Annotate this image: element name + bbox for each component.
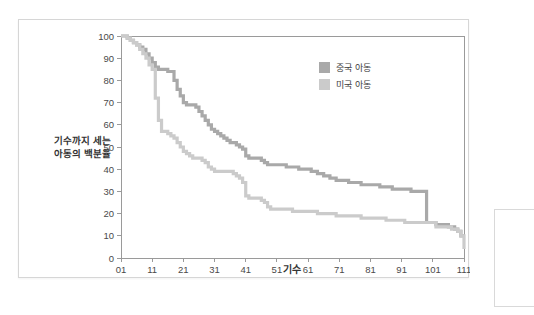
x-tick-label: 101 (425, 264, 441, 275)
x-tick-label: 31 (209, 264, 220, 275)
x-tick-label: 91 (396, 264, 407, 275)
x-tick-label: 01 (116, 264, 127, 275)
x-tick-label: 51 (272, 264, 283, 275)
x-tick-label: 61 (303, 264, 314, 275)
x-tick-label: 41 (240, 264, 251, 275)
plot-area-frame (121, 36, 464, 258)
survival-curve-chart: 0102030405060708090100 01112131415161718… (19, 20, 470, 279)
x-tick-label: 11 (147, 264, 157, 275)
y-tick-label: 70 (103, 97, 114, 108)
legend-label: 중국 아동 (336, 63, 371, 73)
legend-label: 미국 아동 (336, 80, 371, 90)
y-tick-label: 20 (103, 208, 114, 219)
x-axis-title: 기수 (283, 263, 301, 275)
legend-swatch (319, 79, 330, 90)
x-tick-label: 21 (178, 264, 189, 275)
figure-card: 0102030405060708090100 01112131415161718… (18, 19, 469, 278)
y-tick-label: 100 (98, 31, 114, 42)
adjacent-panel-edge (494, 209, 534, 307)
x-tick-label: 81 (365, 264, 376, 275)
y-tick-label: 40 (103, 164, 114, 175)
legend-swatch (319, 62, 330, 73)
x-tick-label: 111 (457, 264, 470, 275)
x-tick-label: 71 (334, 264, 345, 275)
y-tick-label: 30 (103, 186, 114, 197)
y-axis-ticks: 0102030405060708090100 (98, 31, 121, 264)
y-tick-label: 80 (103, 75, 114, 86)
y-axis-label-line1: 기수까지 세는 (54, 135, 111, 146)
y-tick-label: 90 (103, 53, 114, 64)
y-axis-label-line2: 아동의 백분율 (54, 148, 111, 159)
y-tick-label: 10 (103, 230, 114, 241)
y-tick-label: 0 (109, 253, 114, 264)
y-tick-label: 60 (103, 119, 114, 130)
